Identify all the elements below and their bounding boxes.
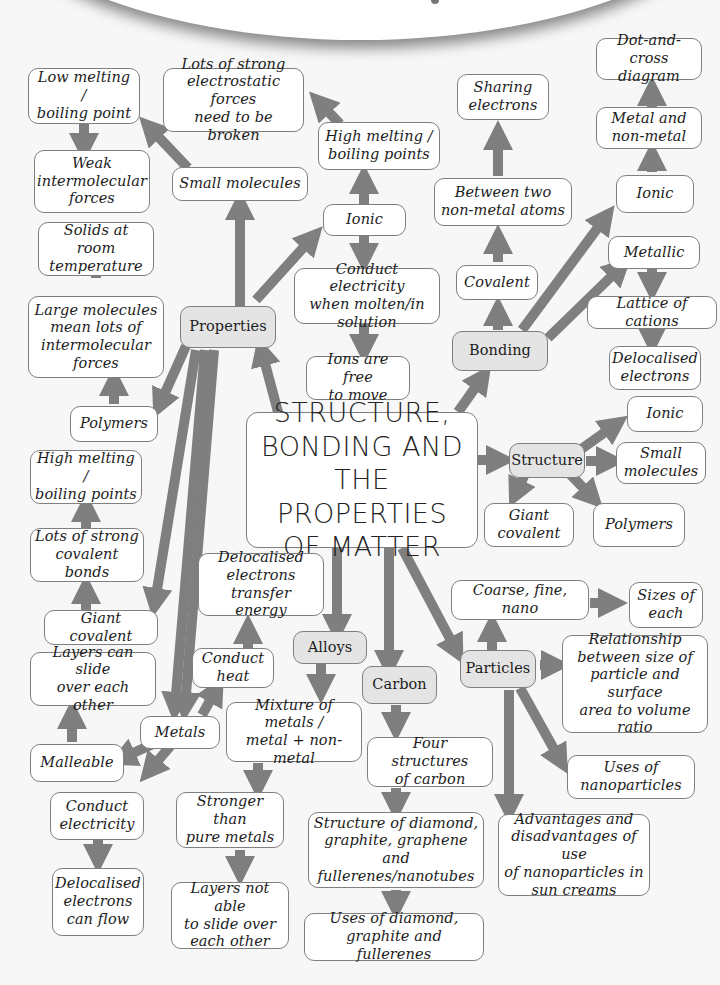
node-small-molecules: Small molecules <box>172 167 308 201</box>
node-deloc-transfer: Delocalised electrons transfer energy <box>198 553 324 616</box>
node-malleable: Malleable <box>30 744 124 782</box>
node-structure-of: Structure of diamond, graphite, graphene… <box>308 812 484 888</box>
node-sharing-electrons: Sharing electrons <box>457 74 549 120</box>
node-high-melting-gc: High melting / boiling points <box>30 450 142 504</box>
node-metals: Metals <box>140 716 220 749</box>
node-dot-cross: Dot-and-cross diagram <box>596 38 702 80</box>
hub-particles[interactable]: Particles <box>460 650 536 688</box>
node-conduct-heat: Conduct heat <box>192 648 274 688</box>
hub-properties[interactable]: Properties <box>180 306 276 348</box>
node-relationship: Relationship between size of particle an… <box>562 635 708 733</box>
node-four-structures: Four structures of carbon <box>367 737 493 787</box>
node-between-nonmetals: Between two non-metal atoms <box>434 178 572 226</box>
node-metal-nonmetal: Metal and non-metal <box>596 107 702 149</box>
node-strong-electrostatic: Lots of strong electrostatic forces need… <box>163 68 304 132</box>
node-solids-room-temp: Solids at room temperature <box>38 222 154 276</box>
node-lattice-cations: Lattice of cations <box>587 296 717 329</box>
node-coarse-fine-nano: Coarse, fine, nano <box>451 580 589 620</box>
node-small-molecules-structure: Small molecules <box>616 442 706 484</box>
node-low-melting: Low melting / boiling point <box>28 68 140 124</box>
node-ionic-bonding: Ionic <box>616 175 694 213</box>
central-title-box: STRUCTURE, BONDING AND THE PROPERTIES OF… <box>246 412 478 548</box>
node-mixture: Mixture of metals / metal + non-metal <box>226 702 362 762</box>
node-delocalised-electrons: Delocalised electrons <box>609 346 701 390</box>
node-layers-not-slide: Layers not able to slide over each other <box>171 882 289 949</box>
node-conduct-electricity: Conduct electricity <box>50 792 144 840</box>
hub-alloys[interactable]: Alloys <box>293 631 367 664</box>
node-polymers-structure: Polymers <box>593 503 685 547</box>
hub-bonding[interactable]: Bonding <box>452 331 548 371</box>
node-metallic: Metallic <box>608 236 700 269</box>
node-advantages: Advantages and disadvantages of use of n… <box>498 814 650 896</box>
hub-structure[interactable]: Structure <box>509 443 585 478</box>
node-weak-forces: Weak intermolecular forces <box>34 150 150 213</box>
node-layers-slide: Layers can slide over each other <box>30 652 156 706</box>
node-deloc-flow: Delocalised electrons can flow <box>52 868 144 936</box>
node-high-melting-ionic: High melting / boiling points <box>318 122 440 170</box>
hub-carbon[interactable]: Carbon <box>362 666 437 704</box>
node-stronger: Stronger than pure metals <box>176 792 284 848</box>
node-sizes-each: Sizes of each <box>629 582 703 628</box>
node-ionic-properties: Ionic <box>323 204 406 236</box>
node-giant-covalent-properties: Giant covalent <box>44 610 158 645</box>
node-covalent: Covalent <box>456 265 538 300</box>
node-giant-covalent-structure: Giant covalent <box>484 503 574 547</box>
node-polymers-properties: Polymers <box>70 406 158 442</box>
node-uses-of-carbon: Uses of diamond, graphite and fullerenes <box>304 913 484 961</box>
node-uses-nano: Uses of nanoparticles <box>567 755 695 799</box>
node-ionic-structure: Ionic <box>627 396 703 432</box>
node-ions-free: Ions are free to move <box>306 356 410 400</box>
node-strong-covalent: Lots of strong covalent bonds <box>30 528 144 582</box>
node-conduct-molten: Conduct electricity when molten/in solut… <box>294 268 440 324</box>
node-large-molecules: Large molecules mean lots of intermolecu… <box>28 296 164 378</box>
central-title: STRUCTURE, BONDING AND THE PROPERTIES OF… <box>251 396 473 563</box>
